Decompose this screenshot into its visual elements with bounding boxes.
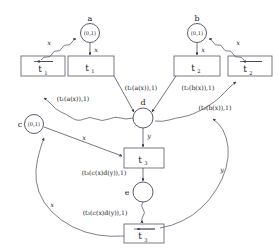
edge-t3bar-to-d-right-loop [160,119,228,228]
figure-canvas: a (0,1) b (0,1) c (0,1) d e t 1 [0,0,278,248]
node-d-group: d [133,98,153,128]
edge-label-t1-ax-lower: (t₁(a(x)),1) [57,95,90,102]
node-b-group: b (0,1) [188,14,207,43]
node-c-group: c (0,1) [18,115,44,134]
edge-label-y-right-side: y [219,166,224,174]
node-d-name: d [140,98,145,107]
box-t2-group: t 2 [174,56,220,76]
node-e-circle [133,182,153,202]
node-c-name: c [18,120,23,129]
edge-label-x-a-down: x [94,46,98,54]
box-t1-bar-label: t [38,64,42,74]
edge-label-t1-ax-upper: (t₁(a(x)),1) [125,84,158,91]
box-t3-bar-sub: 3 [144,237,147,243]
edge-label-x-right-top: x [236,39,240,47]
node-c-value: (0,1) [28,121,40,127]
node-a-group: a (0,1) [81,14,100,43]
box-t1-group: t 1 [68,56,114,76]
dependency-graph-svg: a (0,1) b (0,1) c (0,1) d e t 1 [0,0,278,248]
edge-label-y-d-to-t3: y [146,132,151,140]
box-t1-bar-sub: 1 [44,70,47,76]
edge-t3bar-to-c-left-loop [36,138,124,236]
node-b-name: b [194,14,199,23]
box-t3-sub: 3 [144,160,147,166]
box-t1-sub: 1 [91,68,94,74]
box-t2-bar-group: t 2 [228,56,272,76]
edge-label-x-c-to-t3: x [82,134,86,142]
box-t1-bar [21,56,65,76]
node-a-value: (0,1) [84,30,96,36]
node-d-circle [133,108,153,128]
node-e-group: e [125,182,153,202]
node-a-name: a [88,14,93,23]
edge-label-x-left-top: x [47,39,51,47]
box-t3-label: t [138,155,142,165]
node-e-name: e [125,188,130,197]
box-t2-label: t [191,63,195,73]
edge-t2-to-d [152,76,176,112]
edge-t1-to-d [114,76,134,112]
box-t2-bar-sub: 2 [249,70,252,76]
box-t2-sub: 2 [197,68,200,74]
edge-label-t3-cxdy-upper: (t₃(c(x)d(y)),1) [82,169,127,177]
box-t1-bar-group: t 1 [21,56,65,76]
edge-label-t3-cxdy-lower: (t₃(c(x)d(y)),1) [83,209,128,217]
box-t1-label: t [85,63,89,73]
box-t3-bar-group: t 3 [124,224,164,243]
box-t2-bar-label: t [243,64,247,74]
node-b-value: (0,1) [191,30,203,36]
edge-label-t2-bx-lower: (t₂(b(x)),1) [199,104,232,111]
edge-label-t2-bx-upper: (t₂(b(x)),1) [182,84,215,91]
box-t3-group: t 3 [124,148,164,168]
edge-e-to-t3bar [142,202,145,223]
box-t3-bar-label: t [138,231,142,241]
edge-label-x-b-down: x [201,46,205,54]
edge-label-x-bottom-left: x [50,201,54,209]
